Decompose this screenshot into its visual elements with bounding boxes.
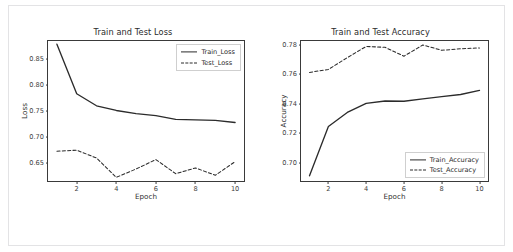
loss-chart-panel: Train and Test Loss 0.650.700.750.800.85…: [9, 6, 257, 245]
accuracy-x-axis-title: Epoch: [301, 192, 488, 201]
y-tick-label: 0.75: [29, 107, 44, 115]
y-tick-mark: [299, 44, 302, 45]
solid-line-icon: [410, 157, 426, 163]
y-tick-mark: [299, 74, 302, 75]
y-tick-mark: [46, 58, 49, 59]
y-tick-mark: [46, 163, 49, 164]
y-tick-mark: [46, 137, 49, 138]
y-tick-mark: [299, 133, 302, 134]
y-tick-mark: [46, 111, 49, 112]
loss-y-axis-title: Loss: [20, 103, 29, 119]
loss-x-axis-title: Epoch: [48, 192, 244, 201]
legend-label-train-loss: Train_Loss: [201, 48, 235, 56]
solid-line-icon: [181, 49, 197, 55]
dashed-line-icon: [181, 60, 197, 66]
x-tick-mark: [195, 181, 196, 184]
accuracy-legend: Train_Accuracy Test_Accuracy: [405, 152, 485, 179]
y-tick-mark: [299, 103, 302, 104]
loss-chart-title: Train and Test Loss: [9, 27, 257, 37]
legend-item-train-accuracy: Train_Accuracy: [410, 156, 479, 164]
series-line-test-accuracy: [309, 45, 479, 72]
x-tick-mark: [235, 181, 236, 184]
loss-legend: Train_Loss Test_Loss: [176, 44, 241, 71]
x-tick-mark: [76, 181, 77, 184]
y-tick-mark: [46, 84, 49, 85]
x-tick-mark: [155, 181, 156, 184]
legend-item-test-accuracy: Test_Accuracy: [410, 166, 479, 174]
y-tick-label: 0.70: [29, 133, 44, 141]
x-tick-mark: [116, 181, 117, 184]
y-tick-label: 0.85: [29, 55, 44, 63]
x-tick-mark: [479, 181, 480, 184]
legend-item-train-loss: Train_Loss: [181, 48, 235, 56]
accuracy-plot-area: 0.700.720.740.760.78 246810 Epoch Accura…: [300, 40, 489, 182]
loss-plot-area: 0.650.700.750.800.85 246810 Epoch Loss T…: [47, 40, 245, 182]
series-line-test-loss: [57, 150, 235, 177]
x-tick-mark: [403, 181, 404, 184]
accuracy-y-axis-title: Accuracy: [279, 95, 288, 128]
matplotlib-figure: Train and Test Loss 0.650.700.750.800.85…: [8, 5, 505, 246]
x-tick-mark: [328, 181, 329, 184]
y-tick-label: 0.70: [282, 159, 297, 167]
y-tick-label: 0.65: [29, 159, 44, 167]
y-tick-label: 0.76: [282, 70, 297, 78]
y-tick-label: 0.80: [29, 81, 44, 89]
y-tick-mark: [299, 162, 302, 163]
legend-label-train-accuracy: Train_Accuracy: [430, 156, 479, 164]
y-tick-label: 0.72: [282, 129, 297, 137]
x-tick-mark: [366, 181, 367, 184]
legend-label-test-loss: Test_Loss: [201, 59, 232, 67]
dashed-line-icon: [410, 167, 426, 173]
y-tick-label: 0.78: [282, 41, 297, 49]
x-tick-mark: [441, 181, 442, 184]
accuracy-chart-panel: Train and Test Accuracy 0.700.720.740.76…: [257, 6, 504, 245]
legend-label-test-accuracy: Test_Accuracy: [430, 166, 476, 174]
legend-item-test-loss: Test_Loss: [181, 59, 235, 67]
accuracy-chart-title: Train and Test Accuracy: [257, 27, 504, 37]
screenshot-root: Train and Test Loss 0.650.700.750.800.85…: [0, 0, 513, 252]
